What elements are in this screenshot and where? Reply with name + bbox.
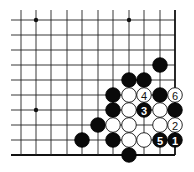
black-stone xyxy=(122,73,137,88)
black-stone-move-5: 5 xyxy=(153,133,168,148)
white-stone-icon xyxy=(153,103,168,118)
white-stone-icon xyxy=(122,88,137,103)
white-stone-icon xyxy=(106,118,121,133)
star-point-icon xyxy=(127,18,131,22)
white-stone-icon xyxy=(122,118,137,133)
black-stone xyxy=(168,103,183,118)
black-stone-icon xyxy=(168,103,183,118)
black-stone-icon xyxy=(106,103,121,118)
star-point-icon xyxy=(34,108,38,112)
white-stone xyxy=(122,88,137,103)
black-stone xyxy=(91,118,106,133)
white-stone xyxy=(122,133,137,148)
white-stone xyxy=(153,103,168,118)
white-stone-icon xyxy=(122,103,137,118)
black-stone xyxy=(122,148,137,163)
black-stone-icon xyxy=(106,133,121,148)
black-stone xyxy=(106,103,121,118)
move-number: 6 xyxy=(172,90,178,102)
black-stone-icon xyxy=(122,73,137,88)
move-number: 5 xyxy=(157,135,163,147)
white-stone xyxy=(122,103,137,118)
move-number: 2 xyxy=(172,120,178,132)
black-stone-icon xyxy=(106,88,121,103)
black-stone xyxy=(106,133,121,148)
black-stone xyxy=(106,88,121,103)
black-stone-icon xyxy=(153,58,168,73)
black-stone-icon xyxy=(153,88,168,103)
white-stone-icon xyxy=(153,118,168,133)
black-stone-icon xyxy=(75,133,90,148)
white-stone-icon xyxy=(122,133,137,148)
star-point-icon xyxy=(34,18,38,22)
black-stone xyxy=(153,88,168,103)
move-number: 4 xyxy=(141,90,147,102)
black-stone-icon xyxy=(91,118,106,133)
black-stone xyxy=(137,73,152,88)
go-board-diagram: 463251 xyxy=(0,0,194,172)
white-stone-move-2: 2 xyxy=(168,118,183,133)
white-stone-move-4: 4 xyxy=(137,88,152,103)
white-stone-icon xyxy=(137,133,152,148)
move-number: 3 xyxy=(141,105,147,117)
black-stone-icon xyxy=(122,148,137,163)
move-number: 1 xyxy=(172,135,178,147)
black-stone-move-1: 1 xyxy=(168,133,183,148)
black-stone xyxy=(75,133,90,148)
white-stone xyxy=(122,118,137,133)
black-stone-move-3: 3 xyxy=(137,103,152,118)
black-stone-icon xyxy=(137,73,152,88)
white-stone-move-6: 6 xyxy=(168,88,183,103)
black-stone xyxy=(153,58,168,73)
white-stone xyxy=(137,133,152,148)
white-stone xyxy=(106,118,121,133)
white-stone xyxy=(153,118,168,133)
